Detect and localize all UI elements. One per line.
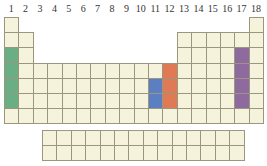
f-block-cell-r2-c8 [143, 145, 158, 161]
group-label-11: 11 [148, 2, 162, 16]
element-cell-g8-p5 [105, 78, 120, 94]
element-cell-g16-p6 [220, 93, 235, 109]
element-cell-g11-p5 [148, 78, 163, 94]
element-cell-g7-p6 [90, 93, 105, 109]
element-cell-g16-p5 [220, 78, 235, 94]
element-cell-g15-p2 [206, 32, 221, 48]
f-block-cell-r2-c14 [229, 145, 244, 161]
element-cell-g14-p3 [191, 47, 206, 63]
element-cell-g17-p7 [234, 108, 249, 124]
f-block-cell-r1-c12 [200, 130, 215, 146]
group-label-1: 1 [4, 2, 18, 16]
f-block-cell-r2-c2 [56, 145, 71, 161]
element-cell-g4-p5 [47, 78, 62, 94]
f-block-cell-r2-c9 [157, 145, 172, 161]
element-cell-g14-p6 [191, 93, 206, 109]
element-cell-g3-p6 [33, 93, 48, 109]
element-cell-g13-p5 [177, 78, 192, 94]
element-cell-g8-p6 [105, 93, 120, 109]
element-cell-g2-p7 [18, 108, 33, 124]
element-cell-g3-p4 [33, 63, 48, 79]
element-cell-g14-p4 [191, 63, 206, 79]
f-block-cell-r1-c2 [56, 130, 71, 146]
group-label-18: 18 [249, 2, 263, 16]
group-label-12: 12 [162, 2, 176, 16]
element-cell-g1-p6 [4, 93, 19, 109]
element-cell-g10-p5 [134, 78, 149, 94]
element-cell-g17-p5 [234, 78, 249, 94]
element-cell-g5-p4 [62, 63, 77, 79]
periodic-table: 123456789101112131415161718 [0, 0, 267, 166]
element-cell-g2-p5 [18, 78, 33, 94]
element-cell-g11-p7 [148, 108, 163, 124]
group-label-10: 10 [134, 2, 148, 16]
element-cell-g13-p3 [177, 47, 192, 63]
element-cell-g14-p5 [191, 78, 206, 94]
element-cell-g15-p5 [206, 78, 221, 94]
element-cell-g15-p3 [206, 47, 221, 63]
group-label-6: 6 [76, 2, 90, 16]
f-block-cell-r2-c6 [114, 145, 129, 161]
element-cell-g1-p7 [4, 108, 19, 124]
f-block-cell-r2-c3 [71, 145, 86, 161]
element-cell-g15-p6 [206, 93, 221, 109]
element-cell-g2-p2 [18, 32, 33, 48]
f-block-cell-r1-c6 [114, 130, 129, 146]
element-cell-g5-p5 [62, 78, 77, 94]
element-cell-g13-p2 [177, 32, 192, 48]
element-cell-g10-p4 [134, 63, 149, 79]
element-cell-g16-p4 [220, 63, 235, 79]
group-label-15: 15 [206, 2, 220, 16]
group-label-2: 2 [18, 2, 32, 16]
f-block-cell-r2-c5 [100, 145, 115, 161]
element-cell-g1-p2 [4, 32, 19, 48]
element-cell-g13-p4 [177, 63, 192, 79]
element-cell-g14-p7 [191, 108, 206, 124]
group-label-9: 9 [119, 2, 133, 16]
group-label-5: 5 [62, 2, 76, 16]
element-cell-g6-p4 [76, 63, 91, 79]
f-block-cell-r2-c1 [42, 145, 57, 161]
element-cell-g13-p7 [177, 108, 192, 124]
element-cell-g4-p4 [47, 63, 62, 79]
element-cell-g10-p6 [134, 93, 149, 109]
f-block-cell-r2-c10 [172, 145, 187, 161]
element-cell-g18-p2 [249, 32, 264, 48]
element-cell-g15-p4 [206, 63, 221, 79]
element-cell-g18-p7 [249, 108, 264, 124]
element-cell-g3-p5 [33, 78, 48, 94]
element-cell-g9-p4 [119, 63, 134, 79]
f-block-cell-r1-c4 [85, 130, 100, 146]
element-cell-g14-p2 [191, 32, 206, 48]
group-label-14: 14 [191, 2, 205, 16]
element-cell-g12-p6 [162, 93, 177, 109]
element-cell-g9-p5 [119, 78, 134, 94]
element-cell-g15-p7 [206, 108, 221, 124]
element-cell-g16-p7 [220, 108, 235, 124]
element-cell-g18-p6 [249, 93, 264, 109]
f-block-cell-r2-c12 [200, 145, 215, 161]
group-label-16: 16 [220, 2, 234, 16]
element-cell-g13-p6 [177, 93, 192, 109]
element-cell-g2-p6 [18, 93, 33, 109]
group-label-7: 7 [90, 2, 104, 16]
f-block-cell-r1-c1 [42, 130, 57, 146]
f-block-cell-r2-c7 [128, 145, 143, 161]
element-cell-g9-p6 [119, 93, 134, 109]
element-cell-g8-p7 [105, 108, 120, 124]
element-cell-g1-p4 [4, 63, 19, 79]
f-block-cell-r1-c3 [71, 130, 86, 146]
element-cell-g1-p1 [4, 17, 19, 33]
element-cell-g18-p5 [249, 78, 264, 94]
element-cell-g5-p6 [62, 93, 77, 109]
element-cell-g8-p4 [105, 63, 120, 79]
element-cell-g6-p7 [76, 108, 91, 124]
element-cell-g16-p3 [220, 47, 235, 63]
element-cell-g17-p4 [234, 63, 249, 79]
group-label-17: 17 [234, 2, 248, 16]
group-label-3: 3 [33, 2, 47, 16]
element-cell-g18-p4 [249, 63, 264, 79]
element-cell-g12-p7 [162, 108, 177, 124]
f-block-cell-r2-c13 [215, 145, 230, 161]
f-block-cell-r1-c13 [215, 130, 230, 146]
